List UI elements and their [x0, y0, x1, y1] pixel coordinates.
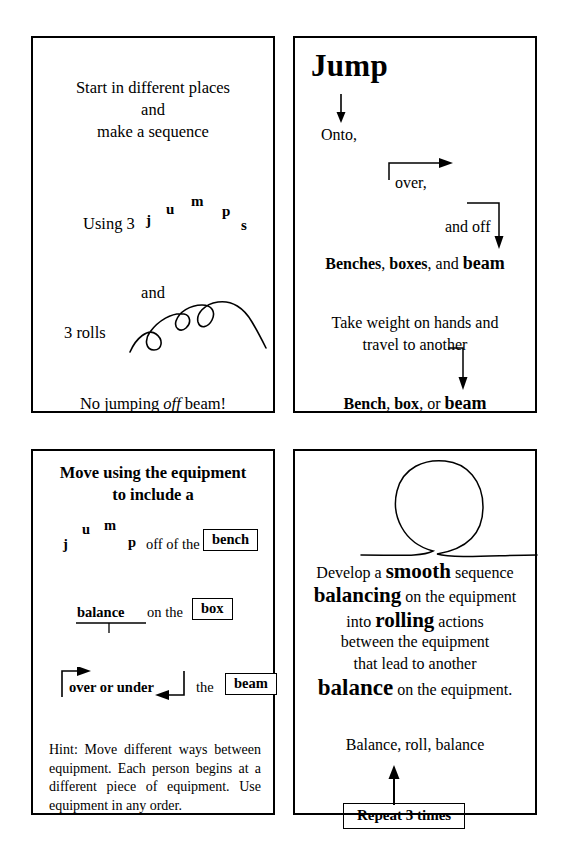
over-label: over,	[395, 174, 427, 192]
hook-down-arrow-icon	[446, 346, 476, 392]
over-under-double-arrow-icon: over or under	[59, 669, 168, 696]
up-arrow-icon	[383, 763, 405, 805]
jump-card: Jump Onto, over,	[293, 36, 537, 413]
equipment-label-box: box	[192, 598, 233, 620]
card-heading-line-1: Start in different places	[33, 78, 273, 98]
arc-letter-m: m	[191, 193, 204, 210]
equipment-label-beam: beam	[225, 673, 277, 695]
arc-letter-j: j	[146, 212, 151, 229]
row2-text: on the	[147, 604, 183, 621]
worksheet-sheet: Start in different places and make a seq…	[0, 0, 565, 850]
row2-word: balance	[77, 604, 125, 620]
repeat-label: Repeat 3 times	[343, 803, 465, 829]
arc-letter-m: m	[104, 517, 116, 534]
equipment-bench: Bench	[344, 395, 387, 412]
arc-letter-s: s	[241, 217, 247, 234]
footer-prefix: No jumping	[80, 394, 163, 413]
equipment-box-bench: bench	[203, 529, 258, 551]
equipment-benches: Benches	[325, 255, 381, 272]
move-using-equipment-card: Move using the equipment to include a j …	[31, 449, 275, 815]
equipment2-sep-2: , or	[419, 395, 444, 412]
body-3-a: into	[346, 613, 375, 630]
onto-label: Onto,	[321, 126, 357, 144]
body-2-b: on the equipment	[401, 588, 516, 605]
body-3-c: actions	[434, 613, 483, 630]
body-1-a: Develop a	[316, 564, 385, 581]
body-6-emph: balance	[318, 675, 393, 700]
equipment-sep-2: , and	[428, 255, 463, 272]
equipment-boxes: boxes	[389, 255, 427, 272]
equipment-line-plural: Benches, boxes, and beam	[295, 253, 535, 274]
card-heading-line-3: make a sequence	[33, 122, 273, 142]
body-6-b: on the equipment.	[393, 681, 512, 698]
equipment-line-singular: Bench, box, or beam	[295, 393, 535, 414]
arc-letter-j: j	[63, 536, 68, 553]
arc-letter-u: u	[82, 521, 90, 538]
row3-text: the	[196, 679, 214, 696]
body-2-emph: balancing	[314, 583, 402, 607]
card-heading-line-1: Move using the equipment	[33, 463, 273, 483]
body-line-2: balancing on the equipment	[295, 583, 535, 608]
body-line-1: Develop a smooth sequence	[295, 559, 535, 584]
equipment-beam-2: beam	[444, 393, 486, 413]
using-label: Using 3	[83, 214, 135, 234]
equipment-beam: beam	[463, 253, 505, 273]
equipment-box: box	[394, 395, 419, 412]
balance-beam-underline-icon: balance	[77, 603, 125, 621]
row1-text: off of the	[146, 536, 200, 553]
equipment-box-box: box	[192, 598, 233, 620]
body-line-5: that lead to another	[295, 655, 535, 673]
card-title-jump: Jump	[311, 48, 388, 84]
body-line-6: balance on the equipment.	[295, 675, 535, 701]
sequence-label: Balance, roll, balance	[295, 736, 535, 754]
smooth-sequence-card: Develop a smooth sequence balancing on t…	[293, 449, 537, 815]
rolls-label: 3 rolls	[64, 323, 106, 343]
body-1-c: sequence	[451, 564, 514, 581]
and-off-label: and off	[445, 218, 490, 236]
no-jumping-footer: No jumping off beam!	[33, 394, 273, 414]
equipment-box-beam: beam	[225, 673, 277, 695]
arc-letter-p: p	[128, 534, 136, 551]
arc-letter-p: p	[222, 203, 230, 220]
three-loops-squiggle-icon	[128, 296, 268, 356]
body-line-4: between the equipment	[295, 633, 535, 651]
vertical-loop-icon	[359, 457, 539, 563]
instruction-line-2: travel to another	[295, 336, 535, 354]
start-in-different-places-card: Start in different places and make a seq…	[31, 36, 275, 413]
instruction-line-1: Take weight on hands and	[295, 314, 535, 332]
body-3-emph: rolling	[375, 608, 434, 632]
body-1-emph: smooth	[386, 559, 451, 583]
footer-emphasis: off	[163, 394, 180, 413]
body-line-3: into rolling actions	[295, 608, 535, 633]
repeat-box: Repeat 3 times	[343, 803, 465, 829]
footer-suffix: beam!	[181, 394, 226, 413]
down-arrow-icon	[331, 94, 351, 124]
equipment-label-bench: bench	[203, 529, 258, 551]
card-heading-line-2: and	[33, 100, 273, 120]
hint-text: Hint: Move different ways between equipm…	[49, 741, 261, 815]
card-heading-line-2: to include a	[33, 485, 273, 505]
arc-letter-u: u	[166, 201, 174, 218]
